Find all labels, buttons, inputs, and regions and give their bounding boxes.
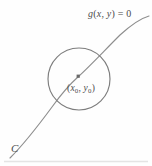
- point-marker-icon: [77, 75, 80, 78]
- point-paren-close: ): [92, 83, 95, 93]
- figure-graphic: [0, 0, 152, 166]
- point-coordinate-label: (x0, y0): [67, 84, 95, 95]
- figure-canvas: g(x, y) = 0 (x0, y0) C: [0, 0, 152, 166]
- constraint-equation-label: g(x, y) = 0: [88, 9, 131, 19]
- neighborhood-circle: [48, 48, 110, 110]
- curve-name-label: C: [11, 143, 19, 154]
- constraint-equals: = 0: [118, 8, 132, 19]
